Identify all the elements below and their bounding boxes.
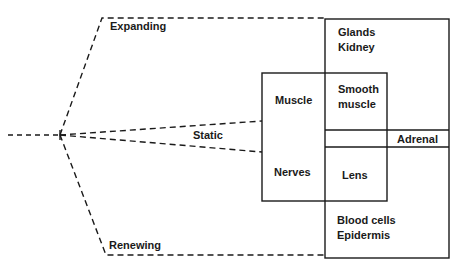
diagram-lines	[0, 0, 462, 271]
muscle-label: Muscle	[275, 93, 312, 108]
expanding-label: Expanding	[110, 19, 166, 34]
smooth-label: Smooth	[338, 82, 379, 97]
static-branch-upper-line	[60, 121, 262, 135]
muscle-sub-label: muscle	[338, 97, 376, 112]
adrenal-label: Adrenal	[397, 132, 438, 147]
renewing-label: Renewing	[109, 238, 161, 253]
renewing-branch-line	[60, 135, 325, 255]
tissue-growth-diagram: Expanding Static Renewing Glands Kidney …	[0, 0, 462, 271]
nerves-label: Nerves	[274, 165, 311, 180]
kidney-label: Kidney	[338, 40, 375, 55]
static-label: Static	[193, 128, 223, 143]
epidermis-label: Epidermis	[337, 228, 390, 243]
expanding-branch-line	[60, 18, 325, 135]
lens-label: Lens	[342, 168, 368, 183]
static-branch-lower-line	[60, 135, 262, 152]
glands-label: Glands	[338, 25, 375, 40]
blood-cells-label: Blood cells	[337, 213, 396, 228]
